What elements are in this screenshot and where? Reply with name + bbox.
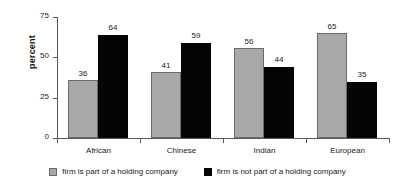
bar: 44 [264,67,294,138]
y-axis-tick-label: 75 [40,11,49,20]
x-axis-category-label: Chinese [167,146,196,155]
chart-legend: firm is part of a holding companyfirm is… [0,167,395,176]
bar-value-label: 35 [358,70,367,79]
bar-value-label: 41 [162,61,171,70]
legend-swatch [204,168,212,176]
x-axis-tick [57,138,58,143]
bar-chart: percent 0255075 3664415956446535 African… [0,0,395,195]
bar-value-label: 65 [328,22,337,31]
legend-label: firm is not part of a holding company [217,167,346,176]
bar: 36 [68,80,98,138]
bar-value-label: 59 [192,31,201,40]
x-axis-category-label: European [330,146,365,155]
bar-value-label: 64 [109,23,118,32]
bar: 59 [181,43,211,138]
y-axis-tick-label: 50 [40,51,49,60]
y-axis-line [57,17,58,139]
bar-value-label: 36 [79,69,88,78]
x-axis-tick [306,138,307,143]
y-axis-title: percent [27,22,37,82]
y-axis-tick: 25 [53,98,57,99]
legend-label: firm is part of a holding company [62,167,178,176]
y-axis-tick: 75 [53,17,57,18]
x-axis-tick [389,138,390,143]
bar: 35 [347,82,377,138]
bar: 56 [234,48,264,138]
y-axis-tick: 50 [53,57,57,58]
legend-item[interactable]: firm is not part of a holding company [204,167,346,176]
bar-value-label: 56 [245,37,254,46]
bar: 65 [317,33,347,138]
x-axis-category-label: Indian [254,146,276,155]
x-axis-tick [140,138,141,143]
x-axis-tick [223,138,224,143]
bar-value-label: 44 [275,55,284,64]
y-axis-tick-label: 25 [40,92,49,101]
legend-swatch [49,168,57,176]
bar: 64 [98,35,128,138]
y-axis-tick-label: 0 [45,132,49,141]
x-axis-category-label: African [86,146,111,155]
bar: 41 [151,72,181,138]
legend-item[interactable]: firm is part of a holding company [49,167,178,176]
plot-area: 0255075 3664415956446535 [57,17,389,138]
